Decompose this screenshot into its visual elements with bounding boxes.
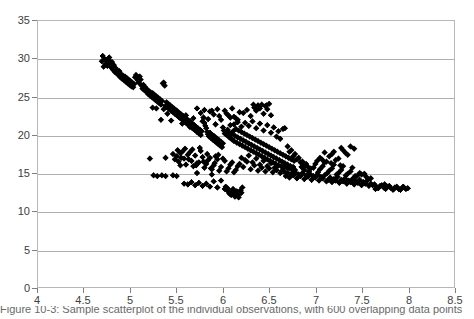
x-tick-mark — [362, 288, 363, 293]
y-tick-label: 5 — [0, 245, 30, 256]
figure-caption: Figure 10-3: Sample scatterplot of the i… — [0, 306, 474, 319]
y-tick-label: 15 — [0, 168, 30, 179]
x-tick-mark — [269, 288, 270, 293]
x-tick-label: 8 — [389, 295, 429, 306]
y-tick-label: 30 — [0, 53, 30, 64]
y-tick-label: 10 — [0, 206, 30, 217]
x-tick-mark — [223, 288, 224, 293]
x-tick-label: 5 — [110, 295, 150, 306]
y-tick-label: 25 — [0, 92, 30, 103]
figure-caption-text: Figure 10-3: Sample scatterplot of the i… — [0, 306, 474, 316]
x-tick-label: 4 — [17, 295, 57, 306]
x-tick-label: 4.5 — [63, 295, 103, 306]
y-tick-label: 0 — [0, 283, 30, 294]
x-tick-mark — [83, 288, 84, 293]
x-tick-label: 7 — [296, 295, 336, 306]
chart-figure: 05101520253035 44.555.566.577.588.5 Figu… — [0, 0, 474, 319]
x-tick-label: 8.5 — [435, 295, 474, 306]
x-tick-mark — [409, 288, 410, 293]
x-tick-label: 6 — [203, 295, 243, 306]
y-tick-label: 35 — [0, 15, 30, 26]
x-tick-mark — [130, 288, 131, 293]
x-tick-mark — [316, 288, 317, 293]
x-tick-label: 5.5 — [156, 295, 196, 306]
plot-area — [37, 20, 455, 288]
x-tick-mark — [176, 288, 177, 293]
x-tick-label: 6.5 — [249, 295, 289, 306]
x-tick-mark — [37, 288, 38, 293]
x-tick-mark — [455, 288, 456, 293]
x-tick-label: 7.5 — [342, 295, 382, 306]
y-tick-label: 20 — [0, 130, 30, 141]
scatter-points — [38, 21, 454, 287]
